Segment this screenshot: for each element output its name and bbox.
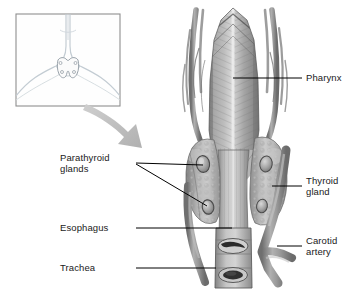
label-esophagus: Esophagus — [60, 222, 136, 233]
pharynx-structure — [205, 4, 264, 156]
pointer-arrow — [83, 104, 142, 148]
left-vessel-bundle — [183, 10, 205, 140]
trachea-structure — [215, 228, 252, 288]
label-carotid-artery: Carotid artery — [306, 235, 337, 257]
label-pharynx: Pharynx — [306, 72, 342, 83]
label-trachea: Trachea — [60, 262, 136, 273]
right-vessel-bundle — [265, 10, 287, 140]
label-thyroid-gland: Thyroid gland — [306, 175, 338, 197]
label-parathyroid-glands: Parathyroid glands — [60, 152, 136, 174]
esophagus-structure — [216, 146, 250, 238]
inset-locator-diagram — [16, 14, 120, 106]
